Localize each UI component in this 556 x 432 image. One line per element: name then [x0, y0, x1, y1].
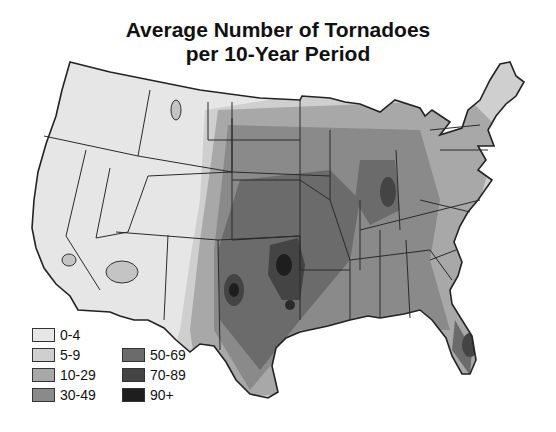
legend-label: 10-29 — [60, 367, 96, 383]
legend-swatch — [122, 368, 145, 382]
legend-label: 0-4 — [60, 327, 80, 343]
legend-label: 50-69 — [150, 347, 186, 363]
legend-swatch — [122, 348, 145, 362]
legend-swatch — [32, 388, 55, 402]
legend-item-5-9: 5-9 — [32, 347, 80, 363]
legend-swatch — [32, 328, 55, 342]
legend-label: 30-49 — [60, 387, 96, 403]
legend-swatch — [32, 368, 55, 382]
legend-label: 5-9 — [60, 347, 80, 363]
legend-item-10-29: 10-29 — [32, 367, 96, 383]
legend-item-30-49: 30-49 — [32, 387, 96, 403]
legend-item-0-4: 0-4 — [32, 327, 80, 343]
legend-item-70-89: 70-89 — [122, 367, 186, 383]
legend-item-50-69: 50-69 — [122, 347, 186, 363]
legend-label: 70-89 — [150, 367, 186, 383]
legend-swatch — [32, 348, 55, 362]
legend-swatch — [122, 388, 145, 402]
legend-label: 90+ — [150, 387, 174, 403]
legend-item-90-plus: 90+ — [122, 387, 174, 403]
